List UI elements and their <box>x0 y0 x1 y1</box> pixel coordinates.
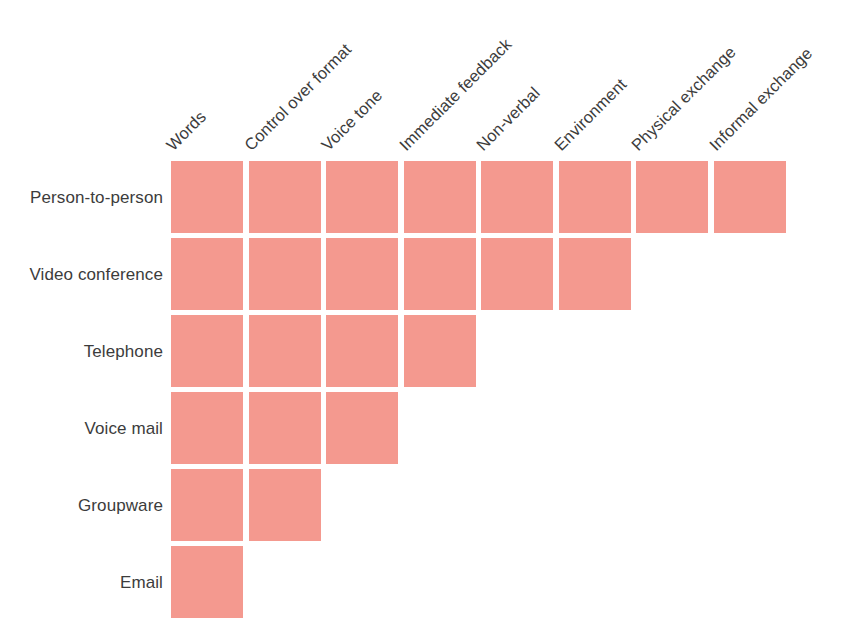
heatmap-cell <box>171 546 243 618</box>
heatmap-row <box>171 469 867 541</box>
heatmap-cell <box>636 161 708 233</box>
heatmap-cell <box>171 315 243 387</box>
row-label-1: Video conference <box>0 266 163 283</box>
row-label-2: Telephone <box>0 343 163 360</box>
heatmap-row <box>171 315 867 387</box>
heatmap-cell <box>481 161 553 233</box>
heatmap-cell <box>249 392 321 464</box>
row-label-5: Email <box>0 574 163 591</box>
heatmap-cell <box>404 315 476 387</box>
heatmap-cell <box>559 238 631 310</box>
row-label-4: Groupware <box>0 497 163 514</box>
heatmap-cell <box>171 161 243 233</box>
row-label-3: Voice mail <box>0 420 163 437</box>
heatmap-cell <box>481 238 553 310</box>
heatmap-cell <box>249 469 321 541</box>
heatmap-cell <box>326 238 398 310</box>
column-header-0: Words <box>163 107 209 153</box>
heatmap-cell <box>249 161 321 233</box>
heatmap-cell <box>404 161 476 233</box>
heatmap-cell <box>326 161 398 233</box>
heatmap-cell <box>559 161 631 233</box>
heatmap-cell <box>171 238 243 310</box>
heatmap-row <box>171 392 867 464</box>
column-header-4: Non-verbal <box>473 84 542 153</box>
heatmap-cell <box>326 315 398 387</box>
row-label-0: Person-to-person <box>0 189 163 206</box>
heatmap-cell <box>714 161 786 233</box>
heatmap-grid <box>171 161 867 613</box>
heatmap-cell <box>404 238 476 310</box>
heatmap-row <box>171 546 867 618</box>
heatmap-cell <box>171 469 243 541</box>
column-header-5: Environment <box>551 75 629 153</box>
heatmap-row <box>171 161 867 233</box>
row-label-axis: Person-to-personVideo conferenceTelephon… <box>0 161 163 613</box>
heatmap-cell <box>249 238 321 310</box>
column-header-2: Voice tone <box>318 86 385 153</box>
heatmap-cell <box>326 392 398 464</box>
heatmap-cell <box>171 392 243 464</box>
column-header-axis: WordsControl over formatVoice toneImmedi… <box>0 0 867 161</box>
heatmap-cell <box>249 315 321 387</box>
heatmap-row <box>171 238 867 310</box>
